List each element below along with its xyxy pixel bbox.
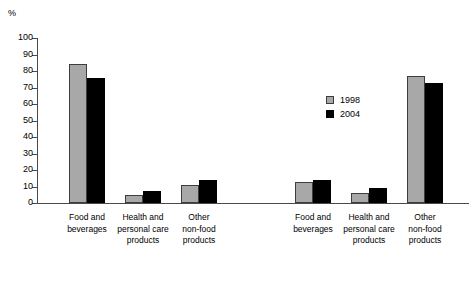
bar-1998 [295, 182, 313, 203]
x-axis-line [37, 203, 469, 204]
bar-1998 [407, 76, 425, 203]
y-axis-tick-label: 70 [23, 82, 33, 93]
legend-swatch-icon-1998 [326, 96, 334, 104]
y-axis-tick: 100 [37, 38, 42, 39]
legend-item-1998: 1998 [326, 93, 360, 107]
y-axis-tick-label: 60 [23, 98, 33, 109]
legend-label-2004: 2004 [340, 109, 360, 120]
y-axis-tick: 0 [37, 203, 42, 204]
y-axis-tick-label: 90 [23, 49, 33, 60]
y-axis-tick: 30 [37, 154, 42, 155]
legend: 1998 2004 [326, 93, 360, 121]
bar-2004 [369, 188, 387, 203]
bar-1998 [351, 193, 369, 203]
y-axis-tick: 20 [37, 170, 42, 171]
y-axis-unit-label: % [8, 8, 16, 18]
y-axis-tick-label: 10 [23, 181, 33, 192]
y-axis-tick: 80 [37, 71, 42, 72]
y-axis-tick: 10 [37, 187, 42, 188]
category-label: Other non-food products [380, 212, 470, 247]
legend-label-1998: 1998 [340, 95, 360, 106]
plot-area: 1009080706050403020100 [37, 38, 469, 204]
bar-2004 [143, 191, 161, 203]
bar-2004 [87, 78, 105, 203]
bar-1998 [69, 64, 87, 203]
y-axis-tick-label: 30 [23, 148, 33, 159]
bar-2004 [425, 83, 443, 203]
bar-chart: % 1009080706050403020100 Food and bevera… [0, 0, 476, 284]
legend-swatch-icon-2004 [326, 110, 334, 118]
y-axis-tick: 70 [37, 88, 42, 89]
y-axis-tick: 50 [37, 121, 42, 122]
y-axis-tick-label: 50 [23, 115, 33, 126]
y-axis-tick: 60 [37, 104, 42, 105]
legend-item-2004: 2004 [326, 107, 360, 121]
bar-1998 [181, 185, 199, 203]
bar-2004 [199, 180, 217, 203]
bar-1998 [125, 195, 143, 203]
y-axis-tick-label: 40 [23, 131, 33, 142]
y-axis-tick: 40 [37, 137, 42, 138]
y-axis-tick-label: 80 [23, 65, 33, 76]
y-axis-tick-label: 0 [28, 197, 33, 208]
y-axis-tick-label: 20 [23, 164, 33, 175]
bar-2004 [313, 180, 331, 203]
category-label: Other non-food products [154, 212, 244, 247]
y-axis-tick: 90 [37, 55, 42, 56]
y-axis-tick-label: 100 [18, 32, 33, 43]
